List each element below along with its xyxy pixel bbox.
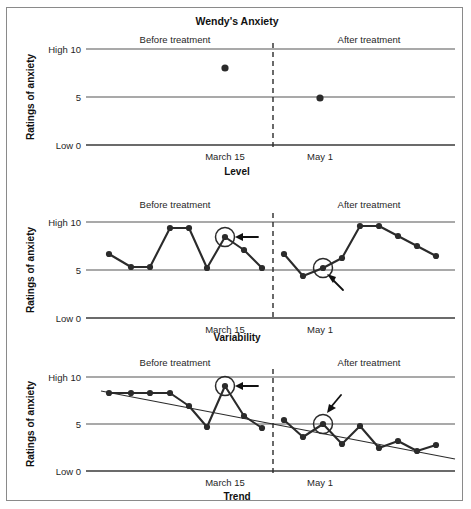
level-chart: Wendy's Anxiety Before treatment After t…	[7, 8, 462, 180]
annotation-arrow-before	[235, 382, 258, 390]
ytick-high10: High 10	[48, 217, 81, 228]
ytick-5: 5	[76, 92, 81, 103]
phase-label-before: Before treatment	[140, 34, 211, 45]
trend-regression-line	[101, 391, 455, 459]
xtick-march-15: March 15	[205, 477, 245, 488]
panel-caption-trend: Trend	[223, 491, 250, 501]
trend-chart: Before treatment After treatment High 10…	[7, 343, 462, 501]
panel-caption-variability: Variability	[213, 332, 261, 343]
series-after-points	[281, 417, 439, 454]
panel-variability: Before treatment After treatment High 10…	[7, 180, 462, 343]
phase-label-after: After treatment	[338, 357, 401, 368]
panel-trend: Before treatment After treatment High 10…	[7, 343, 462, 501]
ytick-high10: High 10	[48, 372, 81, 383]
phase-label-after: After treatment	[338, 34, 401, 45]
panel-level: Wendy's Anxiety Before treatment After t…	[7, 8, 462, 180]
annotation-arrow-after	[327, 395, 341, 413]
phase-label-after: After treatment	[338, 199, 401, 210]
series-after-line	[284, 226, 436, 276]
figure-title: Wendy's Anxiety	[195, 15, 278, 27]
ytick-low0: Low 0	[56, 466, 81, 477]
xtick-may-1: May 1	[307, 151, 333, 162]
phase-label-before: Before treatment	[140, 199, 211, 210]
variability-chart: Before treatment After treatment High 10…	[7, 180, 462, 343]
series-before-line	[109, 228, 262, 268]
ytick-low0: Low 0	[56, 313, 81, 324]
xtick-march-15: March 15	[205, 151, 245, 162]
y-axis-label: Ratings of anxiety	[25, 54, 36, 141]
ytick-high10: High 10	[48, 44, 81, 55]
y-axis-label: Ratings of anxiety	[25, 227, 36, 314]
ytick-5: 5	[76, 419, 81, 430]
figure-frame: Wendy's Anxiety Before treatment After t…	[6, 7, 463, 501]
annotation-arrow-after	[327, 274, 343, 290]
xtick-may-1: May 1	[307, 477, 333, 488]
ytick-5: 5	[76, 265, 81, 276]
phase-label-before: Before treatment	[140, 357, 211, 368]
ytick-low0: Low 0	[56, 140, 81, 151]
annotation-arrow-before	[235, 233, 258, 241]
xtick-may-1: May 1	[307, 324, 333, 335]
panel-caption-level: Level	[224, 166, 250, 177]
data-point-after-mean	[316, 94, 323, 101]
data-point-before-mean	[221, 64, 228, 71]
y-axis-label: Ratings of anxiety	[25, 381, 36, 468]
